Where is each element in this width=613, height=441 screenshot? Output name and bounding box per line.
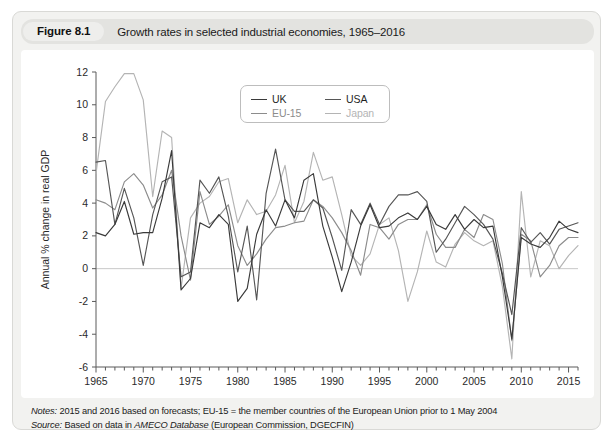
legend-item-uk: UK: [251, 92, 286, 106]
svg-text:-6: -6: [79, 361, 88, 373]
legend-swatch-eu15: [251, 113, 267, 114]
notes-text: 2015 and 2016 based on forecasts; EU-15 …: [57, 406, 497, 416]
svg-text:1995: 1995: [368, 375, 392, 387]
notes-line: Notes: 2015 and 2016 based on forecasts;…: [31, 404, 591, 418]
svg-text:1975: 1975: [179, 375, 203, 387]
notes-label: Notes:: [31, 406, 57, 416]
svg-text:2000: 2000: [415, 375, 439, 387]
figure-notes: Notes: 2015 and 2016 based on forecasts;…: [31, 404, 591, 432]
legend-label-uk: UK: [272, 93, 286, 105]
svg-text:1965: 1965: [84, 375, 108, 387]
source-database-name: AMECO Database: [134, 420, 208, 430]
source-text-pre: Based on data in: [62, 420, 134, 430]
figure-number: Figure 8.1: [23, 22, 104, 41]
svg-text:-4: -4: [79, 328, 88, 340]
legend-item-usa: USA: [325, 92, 367, 106]
legend-label-usa: USA: [346, 93, 367, 105]
svg-text:4: 4: [82, 197, 88, 209]
legend-item-japan: Japan: [325, 106, 374, 120]
svg-text:2015: 2015: [557, 375, 581, 387]
svg-text:2010: 2010: [510, 375, 534, 387]
chart-plot-area: -6-4-2024681012 196519701975198019851990…: [21, 50, 594, 398]
legend-swatch-japan: [325, 113, 341, 114]
x-axis-tick-labels: 1965197019751980198519901995200020052010…: [84, 375, 580, 387]
svg-text:1985: 1985: [273, 375, 297, 387]
legend-label-japan: Japan: [346, 107, 374, 119]
source-text-post: (European Commission, DGECFIN): [209, 420, 354, 430]
y-axis-title: Annual % change in real GDP: [39, 150, 51, 290]
svg-text:12: 12: [76, 66, 88, 78]
svg-text:1980: 1980: [226, 375, 250, 387]
svg-text:1990: 1990: [321, 375, 345, 387]
legend-item-eu15: EU-15: [251, 106, 301, 120]
svg-text:6: 6: [82, 164, 88, 176]
svg-text:2: 2: [82, 229, 88, 241]
chart-legend: UK USA EU-15 Japan: [240, 85, 390, 123]
figure-card: Figure 8.1 Growth rates in selected indu…: [12, 11, 601, 430]
svg-text:-2: -2: [79, 295, 88, 307]
legend-swatch-usa: [325, 99, 341, 100]
svg-text:Annual % change in real GDP: Annual % change in real GDP: [39, 150, 51, 290]
source-line: Source: Based on data in AMECO Database …: [31, 418, 591, 432]
legend-label-eu15: EU-15: [272, 107, 301, 119]
svg-text:1970: 1970: [132, 375, 156, 387]
source-label: Source:: [31, 420, 62, 430]
figure-caption: Growth rates in selected industrial econ…: [117, 26, 405, 38]
svg-text:2005: 2005: [462, 375, 486, 387]
svg-text:0: 0: [82, 262, 88, 274]
svg-text:8: 8: [82, 131, 88, 143]
y-axis-tick-labels: -6-4-2024681012: [76, 66, 88, 373]
figure-header: Figure 8.1 Growth rates in selected indu…: [21, 19, 594, 44]
legend-swatch-uk: [251, 99, 267, 100]
svg-text:10: 10: [76, 98, 88, 110]
